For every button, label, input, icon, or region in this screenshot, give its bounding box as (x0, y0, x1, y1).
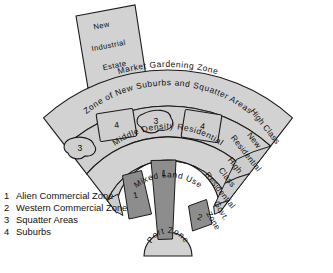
legend-label-2: Western Commercial Zone (16, 202, 154, 214)
legend-label-4: Suburbs (16, 226, 154, 238)
legend-item-3: 3 Squatter Areas (4, 214, 154, 226)
legend: 1 Alien Commercial Zone 2 Western Commer… (4, 190, 154, 238)
legend-item-2: 2 Western Commercial Zone (4, 202, 154, 214)
legend-label-1: Alien Commercial Zone (16, 190, 154, 202)
diagram-root: New Industrial Estate (0, 0, 333, 273)
legend-num-3: 3 (4, 214, 16, 226)
legend-num-2: 2 (4, 202, 16, 214)
legend-num-1: 1 (4, 190, 16, 202)
legend-item-4: 4 Suburbs (4, 226, 154, 238)
legend-item-1: 1 Alien Commercial Zone (4, 190, 154, 202)
legend-num-4: 4 (4, 226, 16, 238)
marker-label-squatter-left: 3 (78, 143, 83, 153)
legend-label-3: Squatter Areas (16, 214, 154, 226)
